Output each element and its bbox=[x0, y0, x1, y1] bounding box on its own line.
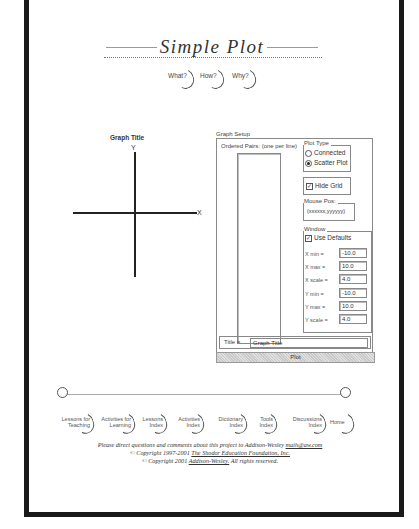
title-input[interactable]: Graph Title bbox=[250, 338, 368, 348]
radio-icon bbox=[305, 150, 312, 157]
arc-icon bbox=[73, 411, 97, 437]
nav-discussions-index[interactable]: Discussions Index bbox=[284, 413, 326, 433]
x-scale-label: X scale = bbox=[305, 277, 328, 283]
arc-icon bbox=[333, 411, 357, 437]
arc-icon bbox=[183, 411, 207, 437]
nav-activities-for-learning[interactable]: Activities for Learning bbox=[97, 413, 135, 433]
x-scale-input[interactable]: 4.0 bbox=[339, 274, 367, 284]
plot-type-legend: Plot Type bbox=[304, 140, 331, 146]
y-axis bbox=[134, 152, 136, 277]
arc-icon bbox=[203, 67, 227, 92]
y-scale-input[interactable]: 4.0 bbox=[339, 314, 367, 324]
ordered-pairs-textarea[interactable] bbox=[237, 153, 281, 344]
y-min-input[interactable]: -10.0 bbox=[339, 288, 367, 298]
radio-scatter-plot[interactable]: Scatter Plot bbox=[305, 159, 348, 167]
hide-grid-checkbox[interactable]: ✓Hide Grid bbox=[306, 182, 342, 190]
graph-title: Graph Title bbox=[110, 134, 144, 141]
how-button[interactable]: How? bbox=[200, 68, 224, 88]
window-legend: Window bbox=[304, 226, 327, 232]
shodor-link[interactable]: The Shodor Education Foundation, Inc. bbox=[191, 449, 290, 456]
nav-home[interactable]: Home bbox=[330, 413, 354, 433]
y-scale-label: Y scale = bbox=[305, 317, 328, 323]
nav-dictionary-index[interactable]: Dictionary Index bbox=[209, 413, 247, 433]
mouse-pos-value: (xxxxxx,yyyyyy) bbox=[307, 208, 345, 214]
y-min-label: Y min = bbox=[305, 291, 324, 297]
x-axis bbox=[73, 212, 197, 214]
x-min-input[interactable]: -10.0 bbox=[339, 248, 367, 258]
arc-icon bbox=[256, 411, 280, 437]
arc-icon bbox=[235, 67, 259, 92]
arc-icon bbox=[173, 67, 197, 92]
addison-wesley-link[interactable]: Addison-Wesley. bbox=[189, 457, 230, 464]
arc-icon bbox=[226, 411, 250, 437]
what-button[interactable]: What? bbox=[168, 68, 194, 88]
ordered-pairs-label: Ordered Pairs: (one per line) bbox=[221, 143, 297, 149]
title-row: Title = Graph Title bbox=[219, 336, 371, 349]
rail-end-circle-icon bbox=[57, 387, 68, 398]
nav-tools-index[interactable]: Tools Index bbox=[253, 413, 277, 433]
nav-activities-index[interactable]: Activities Index bbox=[172, 413, 204, 433]
arc-icon bbox=[114, 411, 138, 437]
y-max-label: Y max = bbox=[305, 304, 325, 310]
footer: Please direct questions and comments abo… bbox=[40, 441, 380, 465]
mouse-pos-legend: Mouse Pos: bbox=[304, 198, 338, 204]
y-axis-label: Y bbox=[131, 144, 136, 151]
nav-rail bbox=[64, 394, 342, 395]
x-max-label: X max = bbox=[305, 264, 325, 270]
x-min-label: X min = bbox=[305, 251, 324, 257]
radio-selected-icon bbox=[305, 160, 312, 167]
radio-connected[interactable]: Connected bbox=[305, 149, 345, 157]
page-title: Simple Plot bbox=[157, 36, 268, 57]
checkbox-checked-icon: ✓ bbox=[306, 183, 313, 190]
graph-setup-legend: Graph Setup bbox=[216, 131, 252, 137]
page-title-banner: Simple Plot bbox=[106, 36, 318, 60]
nav-lessons-index[interactable]: Lessons Index bbox=[139, 413, 167, 433]
plot-button[interactable]: Plot bbox=[216, 352, 375, 363]
y-max-input[interactable]: 10.0 bbox=[339, 301, 367, 311]
arc-icon bbox=[146, 411, 170, 437]
nav-lessons-for-teaching[interactable]: Lessons for Teaching bbox=[60, 413, 94, 433]
checkbox-checked-icon: ✓ bbox=[305, 235, 312, 242]
rail-end-circle-icon bbox=[340, 387, 351, 398]
x-max-input[interactable]: 10.0 bbox=[339, 261, 367, 271]
arc-icon bbox=[305, 411, 329, 437]
email-link[interactable]: math@aw.com bbox=[286, 441, 323, 448]
why-button[interactable]: Why? bbox=[232, 68, 256, 88]
x-axis-label: X bbox=[197, 209, 202, 216]
use-defaults-checkbox[interactable]: ✓Use Defaults bbox=[305, 234, 351, 242]
title-field-label: Title = bbox=[224, 339, 240, 345]
